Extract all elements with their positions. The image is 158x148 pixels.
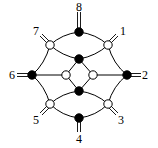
label-5: 5 bbox=[33, 113, 39, 127]
edge-5-6 bbox=[32, 75, 50, 104]
node-5-open bbox=[46, 100, 54, 108]
node-inner-left-open bbox=[62, 71, 70, 79]
label-7: 7 bbox=[33, 24, 39, 38]
edge-3-innerbottom bbox=[79, 91, 108, 104]
node-7-open bbox=[46, 41, 54, 49]
node-1-open bbox=[104, 41, 112, 49]
edge-3-4 bbox=[79, 104, 108, 118]
label-1: 1 bbox=[120, 24, 126, 38]
label-2: 2 bbox=[142, 68, 148, 82]
node-6-filled bbox=[28, 71, 36, 79]
edge-2-3 bbox=[108, 75, 127, 104]
node-8-filled bbox=[75, 28, 83, 36]
node-4-filled bbox=[75, 114, 83, 122]
label-6: 6 bbox=[9, 68, 15, 82]
edge-5-innerbottom bbox=[50, 91, 79, 104]
node-inner-right-open bbox=[89, 71, 97, 79]
edge-4-5 bbox=[50, 104, 79, 118]
edge-8-1 bbox=[79, 32, 108, 45]
edge-1-innertop bbox=[79, 45, 108, 59]
node-inner-top-filled bbox=[75, 55, 83, 63]
label-8: 8 bbox=[76, 0, 82, 14]
edge-7-innertop bbox=[50, 45, 79, 59]
label-3: 3 bbox=[118, 113, 124, 127]
molecular-graph-diagram: 8 1 2 3 4 5 6 7 bbox=[0, 0, 158, 148]
node-inner-bottom-filled bbox=[75, 87, 83, 95]
edge-6-7 bbox=[32, 45, 50, 75]
node-3-open bbox=[104, 100, 112, 108]
edge-1-2 bbox=[108, 45, 127, 75]
node-2-filled bbox=[123, 71, 131, 79]
edge-7-8 bbox=[50, 32, 79, 45]
label-4: 4 bbox=[76, 132, 82, 146]
